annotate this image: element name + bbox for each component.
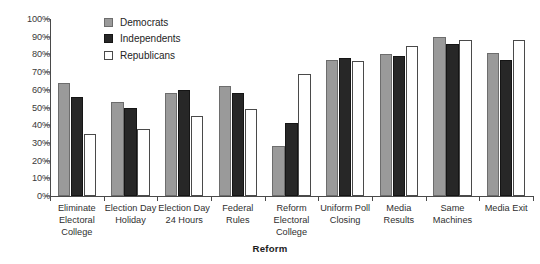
bar-republicans-1 [137, 129, 150, 196]
x-axis-title: Reform [0, 243, 540, 254]
bar-democrats-4 [272, 146, 285, 196]
bar-republicans-8 [513, 40, 526, 196]
bar-republicans-3 [245, 109, 258, 196]
legend-label-democrats: Democrats [120, 17, 168, 28]
y-tick-label: 50% [6, 103, 50, 113]
bar-independents-3 [232, 93, 245, 196]
bar-independents-4 [285, 123, 298, 196]
y-tick-label: 10% [6, 173, 50, 183]
bar-democrats-3 [219, 86, 232, 196]
bar-democrats-1 [111, 102, 124, 196]
bar-republicans-6 [406, 46, 419, 196]
legend-swatch-democrats-icon [104, 18, 113, 27]
x-tick-mark [157, 196, 158, 201]
y-tick-label: 0% [6, 191, 50, 201]
bar-independents-6 [393, 56, 406, 196]
bar-independents-5 [339, 58, 352, 196]
bar-democrats-2 [165, 93, 178, 196]
x-tick-mark [533, 196, 534, 201]
bar-group [433, 19, 472, 196]
bar-group [326, 19, 365, 196]
x-category-label: Media Exit [473, 203, 539, 215]
legend-item-republicans: Republicans [104, 47, 181, 64]
x-axis-line [50, 196, 533, 197]
bar-group [219, 19, 258, 196]
bar-independents-1 [124, 108, 137, 197]
bar-democrats-0 [58, 83, 71, 196]
legend-swatch-independents-icon [104, 34, 113, 43]
bar-group [380, 19, 419, 196]
x-tick-mark [426, 196, 427, 201]
x-tick-mark [372, 196, 373, 201]
bar-republicans-7 [459, 40, 472, 196]
bar-chart: 100%90%80%70%60%50%40%30%20%10%0% Elimin… [0, 0, 540, 264]
bar-republicans-4 [298, 74, 311, 196]
bar-independents-2 [178, 90, 191, 196]
bar-group [58, 19, 97, 196]
bar-group [487, 19, 526, 196]
y-tick-label: 90% [6, 32, 50, 42]
y-tick-label: 70% [6, 67, 50, 77]
legend-label-independents: Independents [120, 33, 181, 44]
bar-independents-8 [500, 60, 513, 196]
x-tick-mark [318, 196, 319, 201]
x-tick-mark [479, 196, 480, 201]
y-tick-label: 30% [6, 138, 50, 148]
bar-independents-0 [71, 97, 84, 196]
x-tick-mark [211, 196, 212, 201]
bar-republicans-2 [191, 116, 204, 196]
legend-item-democrats: Democrats [104, 14, 181, 31]
x-tick-mark [265, 196, 266, 201]
y-tick-label: 80% [6, 49, 50, 59]
legend-item-independents: Independents [104, 31, 181, 48]
bar-republicans-0 [84, 134, 97, 196]
bar-republicans-5 [352, 61, 365, 196]
bar-democrats-8 [487, 53, 500, 196]
y-tick-label: 20% [6, 156, 50, 166]
bar-democrats-7 [433, 37, 446, 196]
y-tick-label: 40% [6, 120, 50, 130]
y-tick-label: 60% [6, 85, 50, 95]
x-tick-mark [104, 196, 105, 201]
legend-swatch-republicans-icon [104, 51, 113, 60]
bar-independents-7 [446, 44, 459, 196]
legend: Democrats Independents Republicans [104, 14, 181, 64]
y-tick-label: 100% [6, 14, 50, 24]
legend-label-republicans: Republicans [120, 50, 175, 61]
bar-democrats-6 [380, 54, 393, 196]
bar-democrats-5 [326, 60, 339, 196]
bar-group [272, 19, 311, 196]
x-tick-mark [50, 196, 51, 201]
